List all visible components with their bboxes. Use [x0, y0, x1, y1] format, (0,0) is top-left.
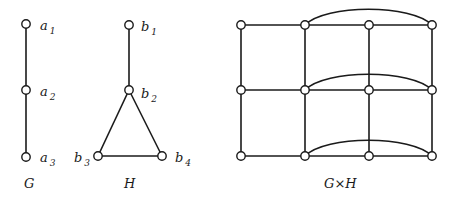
- node-a3b3: [237, 152, 245, 160]
- caption-g: G: [24, 176, 34, 191]
- node-b4: [158, 152, 166, 160]
- caption-gxh: G×H: [324, 176, 357, 191]
- node-a1: [22, 20, 30, 28]
- node-a2: [22, 86, 30, 94]
- node-b3: [94, 152, 102, 160]
- node-a1b2: [301, 21, 309, 29]
- label-a3: a3: [40, 150, 56, 168]
- node-a2b1: [365, 86, 373, 94]
- graph-g: a1 a2 a3 G: [22, 18, 56, 191]
- label-a1: a1: [40, 18, 56, 36]
- label-b4: b4: [175, 150, 191, 168]
- node-a2b2: [301, 86, 309, 94]
- node-b2: [125, 86, 133, 94]
- graph-h: b1 b2 b3 b4 H: [74, 19, 191, 191]
- node-a1b4: [428, 21, 436, 29]
- node-a1b1: [365, 21, 373, 29]
- graph-product: G×H: [237, 9, 436, 191]
- graph-product-diagram: a1 a2 a3 G b1 b2 b3 b4 H: [0, 0, 457, 200]
- label-a2: a2: [40, 84, 56, 102]
- caption-h: H: [123, 176, 136, 191]
- label-b2: b2: [141, 86, 157, 104]
- node-a3b4: [428, 152, 436, 160]
- node-a3b2: [301, 152, 309, 160]
- node-a3: [22, 153, 30, 161]
- label-b1: b1: [141, 19, 157, 37]
- node-b1: [125, 21, 133, 29]
- node-a2b3: [237, 86, 245, 94]
- edge-b2-b3: [98, 90, 129, 156]
- label-b3: b3: [74, 150, 90, 168]
- node-a3b1: [365, 152, 373, 160]
- node-a1b3: [237, 21, 245, 29]
- node-a2b4: [428, 86, 436, 94]
